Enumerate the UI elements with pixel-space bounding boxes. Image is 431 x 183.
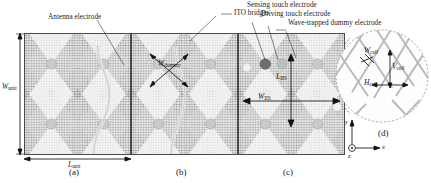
panel-label-d: (d) [378,128,389,138]
panel-label-a: (a) [69,167,79,177]
dim-w-iis-sub: IIS [264,95,271,101]
driving-touch-leader [268,26,278,60]
dim-v-cell: Vcell [392,62,404,71]
callout-wave-trapped-dummy-electrode: Wave-trapped dummy electrode [288,19,381,27]
callout-antenna-electrode: Antenna electrode [48,13,101,21]
dim-l-iis-sub: IIS [280,75,287,81]
axis-label-y: y [345,118,348,125]
dim-w-dummy: Wdummy [158,59,181,68]
dim-w-iis: WIIS [258,92,271,101]
antenna-electrode-leader [97,20,124,65]
sensing-touch-leader [252,22,265,60]
panel-label-b: (b) [176,167,187,177]
dim-w-unit: Wunit [2,82,17,91]
callout-driving-touch-electrode: Driving touch electrode [261,10,330,18]
dim-w-cell-sub: cell [370,49,378,55]
coordinate-axes [349,120,380,151]
l-iis-arrow [288,54,294,127]
dim-w-unit-sub: unit [8,85,16,91]
dim-h-cell: Hcell [364,78,377,87]
dim-l-iis: LIIS [276,72,287,81]
dim-v-cell-symbol: V [392,62,397,71]
annotation-overlay [0,0,431,183]
callout-sensing-touch-electrode: Sensing touch electrode [247,1,317,9]
dim-v-cell-sub: cell [397,65,405,71]
figure-canvas: Antenna electrode ITO bridges Sensing to… [0,0,431,183]
dim-h-cell-sub: cell [369,81,377,87]
ito-bridges-leader [190,16,216,41]
dim-w-cell: Wcell [364,46,378,55]
axis-label-z: z [348,152,351,159]
w-unit-arrow [16,33,24,155]
dim-w-dummy-sub: dummy [164,62,180,68]
panel-label-c: (c) [283,167,293,177]
axis-label-x: x [382,143,385,150]
